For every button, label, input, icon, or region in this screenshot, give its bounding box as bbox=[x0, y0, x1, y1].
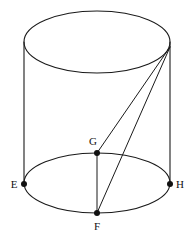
vertex-label-H: H bbox=[176, 178, 184, 190]
vertex-dot-F bbox=[94, 210, 100, 216]
vertex-dot-E bbox=[21, 181, 27, 187]
vertex-label-G: G bbox=[89, 135, 97, 147]
vertex-label-F: F bbox=[94, 220, 100, 232]
cylinder-diagram-svg: E F G H bbox=[0, 0, 192, 238]
cylinder-figure: E F G H bbox=[0, 0, 192, 238]
vertex-dot-H bbox=[167, 181, 173, 187]
vertex-label-E: E bbox=[11, 178, 18, 190]
top-ellipse bbox=[24, 11, 170, 73]
segment-apex-to-G bbox=[97, 47, 170, 153]
segment-apex-to-F bbox=[97, 47, 170, 213]
vertex-dot-G bbox=[94, 150, 100, 156]
